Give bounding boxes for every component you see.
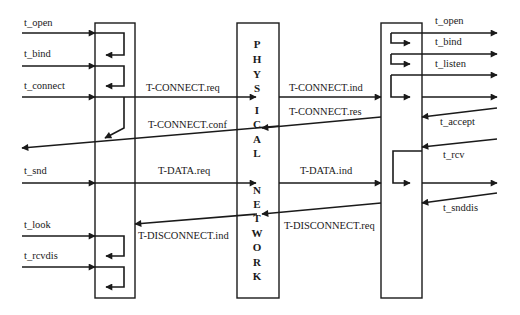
connect-ind-arrow: T-CONNECT.ind	[279, 82, 381, 97]
svg-text:H: H	[253, 53, 262, 65]
left-t-connect-call: t_connect	[22, 80, 95, 97]
svg-text:t_snd: t_snd	[24, 165, 48, 176]
svg-text:P: P	[254, 38, 261, 50]
left-t-snd-call: t_snd	[22, 165, 95, 183]
protocol-sequence-diagram: P H Y S I C A L N E T W O R K t_open t_b…	[0, 0, 520, 315]
svg-text:Y: Y	[253, 68, 261, 80]
svg-text:T-CONNECT.conf: T-CONNECT.conf	[148, 119, 228, 130]
svg-text:t_listen: t_listen	[435, 58, 467, 69]
svg-text:t_open: t_open	[24, 17, 53, 28]
connect-res-arrow: T-CONNECT.res	[262, 106, 381, 128]
svg-text:t_accept: t_accept	[440, 116, 475, 127]
svg-text:t_bind: t_bind	[435, 36, 463, 47]
svg-text:t_look: t_look	[24, 219, 52, 230]
right-t-accept-call: t_accept	[422, 108, 497, 127]
svg-text:A: A	[253, 133, 261, 145]
svg-text:t_bind: t_bind	[24, 48, 52, 59]
svg-text:T-DATA.ind: T-DATA.ind	[300, 165, 353, 176]
data-ind-arrow: T-DATA.ind	[279, 165, 381, 183]
svg-text:I: I	[255, 104, 259, 116]
right-t-snddis-call: t_snddis	[422, 193, 497, 213]
svg-text:T-CONNECT.res: T-CONNECT.res	[289, 106, 362, 117]
svg-text:t_open: t_open	[435, 15, 464, 26]
svg-text:T-DISCONNECT.req: T-DISCONNECT.req	[284, 220, 375, 231]
svg-text:T-DISCONNECT.ind: T-DISCONNECT.ind	[138, 230, 229, 241]
svg-text:S: S	[254, 82, 260, 94]
svg-text:T-CONNECT.req: T-CONNECT.req	[146, 82, 221, 93]
svg-text:T-DATA.req: T-DATA.req	[158, 165, 211, 176]
svg-text:L: L	[253, 147, 260, 159]
svg-text:t_rcv: t_rcv	[443, 149, 465, 160]
svg-text:t_rcvdis: t_rcvdis	[24, 250, 58, 261]
svg-text:W: W	[252, 227, 263, 239]
svg-text:E: E	[253, 198, 260, 210]
svg-text:N: N	[253, 184, 261, 196]
svg-text:t_snddis: t_snddis	[443, 202, 478, 213]
disconnect-req-arrow: T-DISCONNECT.req	[262, 203, 381, 231]
svg-text:R: R	[253, 256, 262, 268]
svg-text:K: K	[253, 270, 262, 282]
svg-text:T-CONNECT.ind: T-CONNECT.ind	[289, 82, 364, 93]
svg-text:t_connect: t_connect	[24, 80, 65, 91]
svg-text:O: O	[253, 241, 262, 253]
